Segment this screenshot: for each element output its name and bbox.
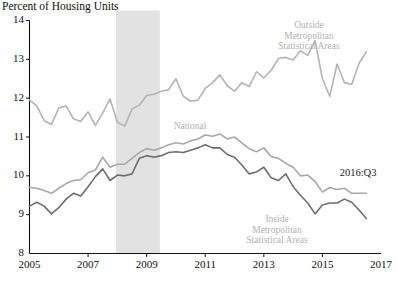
annotation-line: Inside [246, 214, 307, 225]
annotation-line: Statistical Areas [246, 235, 307, 246]
x-axis-tick-label: 2011 [187, 258, 223, 270]
y-axis-tick-label: 12 [5, 91, 24, 103]
x-axis-tick-label: 2017 [363, 258, 397, 270]
series-line-outside-metropolitan-statistical-areas [30, 41, 367, 126]
recession-shading-group [116, 11, 160, 254]
annotation-line: National [174, 121, 207, 132]
annotation-line: Metropolitan [278, 31, 339, 42]
y-axis-tick-label: 8 [5, 246, 24, 258]
x-axis-tick-label: 2013 [246, 258, 282, 270]
y-axis-tick-label: 9 [5, 207, 24, 219]
annotation-inside-msa: InsideMetropolitanStatistical Areas [246, 214, 307, 246]
axes-group [26, 21, 381, 258]
x-axis-tick-label: 2005 [12, 258, 48, 270]
series-line-national [30, 134, 367, 193]
x-axis-tick-label: 2015 [304, 258, 340, 270]
annotation-last-observation: 2016:Q3 [340, 168, 377, 179]
annotation-line: Outside [278, 20, 339, 31]
annotation-line: Statistical Areas [278, 41, 339, 52]
annotation-line: Metropolitan [246, 225, 307, 236]
y-axis-tick-label: 14 [5, 13, 24, 25]
recession-band [116, 11, 160, 254]
annotation-national: National [174, 121, 207, 132]
annotation-outside-msa: OutsideMetropolitanStatistical Areas [278, 20, 339, 52]
x-axis-tick-label: 2009 [129, 258, 165, 270]
annotation-line: 2016:Q3 [340, 168, 377, 179]
y-axis-tick-label: 13 [5, 52, 24, 64]
y-axis-tick-label: 10 [5, 168, 24, 180]
y-axis-tick-label: 11 [5, 130, 24, 142]
x-axis-tick-label: 2007 [70, 258, 106, 270]
